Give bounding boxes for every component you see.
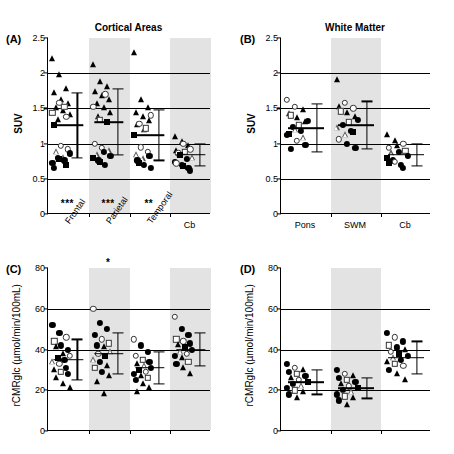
error-bar-cap — [362, 377, 373, 378]
data-point — [60, 350, 66, 356]
data-point — [394, 370, 400, 376]
y-tick-label: 40 — [35, 345, 48, 355]
data-point — [337, 108, 343, 114]
y-tick-label: 0.5 — [265, 174, 281, 184]
data-point — [106, 147, 112, 153]
mean-line — [54, 124, 83, 126]
error-bar-cap — [194, 166, 205, 167]
plot-area-d: 020406080 — [280, 268, 430, 431]
mean-line — [338, 124, 374, 126]
error-bar-cap — [412, 143, 423, 144]
data-point — [101, 391, 107, 397]
data-point — [132, 352, 138, 358]
data-point — [342, 131, 348, 137]
data-point — [383, 330, 389, 336]
error-bar-cap — [72, 339, 83, 340]
data-point — [283, 361, 289, 367]
panel-title-b: White Matter — [280, 22, 430, 33]
y-tick-label: 2 — [273, 68, 281, 78]
plot-area-a: 00.511.522.5 — [47, 38, 210, 214]
y-tick-label: 0 — [273, 209, 281, 219]
error-bar-cap — [113, 373, 124, 374]
data-point — [138, 342, 144, 348]
panel-title-a: Cortical Areas — [47, 22, 210, 33]
shaded-band — [170, 38, 211, 213]
y-axis-label-d: rCMRglc (µmol/min/100mL) — [244, 287, 255, 407]
data-point — [143, 125, 149, 131]
data-point — [283, 97, 289, 103]
data-point — [146, 384, 152, 390]
x-axis-label: Cb — [184, 220, 196, 230]
error-bar-cap — [362, 101, 373, 102]
mean-line — [94, 122, 123, 124]
mean-line — [176, 154, 205, 156]
data-point — [394, 143, 400, 149]
y-axis-label-c: rCMRglc (µmol/min/100mL) — [11, 287, 22, 407]
mean-line — [135, 367, 164, 369]
data-point — [49, 322, 55, 328]
data-point — [402, 346, 408, 352]
data-point — [344, 109, 350, 115]
x-tick-mark — [130, 213, 131, 217]
data-point — [56, 72, 62, 78]
data-point — [134, 360, 140, 366]
data-point — [53, 148, 59, 154]
y-tick-label: 0.5 — [32, 174, 48, 184]
x-tick-mark — [89, 430, 90, 434]
data-point — [172, 133, 178, 139]
data-point — [94, 378, 100, 384]
figure-root: (A)Cortical AreasSUV00.511.522.5Frontal*… — [0, 0, 454, 454]
data-point — [145, 348, 151, 354]
data-point — [138, 96, 144, 102]
x-tick-mark — [381, 430, 382, 434]
data-point — [400, 338, 406, 344]
data-point — [146, 153, 152, 159]
panel-label-d: (D) — [240, 263, 255, 275]
data-point — [400, 140, 406, 146]
panel-label-a: (A) — [6, 33, 21, 45]
error-bar-cap — [72, 92, 83, 93]
significance-marker: *** — [61, 198, 74, 209]
error-bar-cap — [362, 398, 373, 399]
data-point — [145, 105, 151, 111]
data-point — [146, 117, 152, 123]
data-point — [300, 389, 306, 395]
x-axis-label: SWM — [344, 220, 366, 230]
data-point — [51, 164, 57, 170]
data-point — [140, 113, 146, 119]
x-tick-mark — [170, 430, 171, 434]
panel-label-c: (C) — [6, 263, 21, 275]
data-point — [300, 106, 306, 112]
data-point — [51, 366, 57, 372]
gridline — [281, 309, 430, 310]
data-point — [400, 164, 406, 170]
data-point — [386, 367, 392, 373]
data-point — [402, 376, 408, 382]
data-point — [61, 104, 67, 110]
error-bar-cap — [412, 341, 423, 342]
y-tick-label: 0 — [40, 426, 48, 436]
data-point — [386, 160, 392, 166]
data-point — [56, 156, 62, 162]
error-bar-cap — [412, 166, 423, 167]
data-point — [298, 382, 304, 388]
data-point — [348, 389, 354, 395]
error-bar-cap — [312, 394, 323, 395]
data-point — [302, 142, 308, 148]
x-tick-mark — [331, 213, 332, 217]
y-axis-label-a: SUV — [13, 64, 24, 184]
data-point — [136, 160, 142, 166]
data-point — [90, 356, 96, 362]
error-bar-cap — [194, 333, 205, 334]
x-axis-label: Pons — [295, 220, 316, 230]
plot-area-b: 00.511.522.5 — [280, 38, 430, 214]
data-point — [138, 372, 144, 378]
error-bar-cap — [312, 104, 323, 105]
data-point — [287, 112, 293, 118]
y-tick-label: 2.5 — [32, 33, 48, 43]
error-bar-cap — [194, 365, 205, 366]
data-point — [66, 352, 72, 358]
data-point — [148, 164, 154, 170]
gridline — [48, 73, 210, 74]
significance-marker: * — [106, 257, 110, 268]
